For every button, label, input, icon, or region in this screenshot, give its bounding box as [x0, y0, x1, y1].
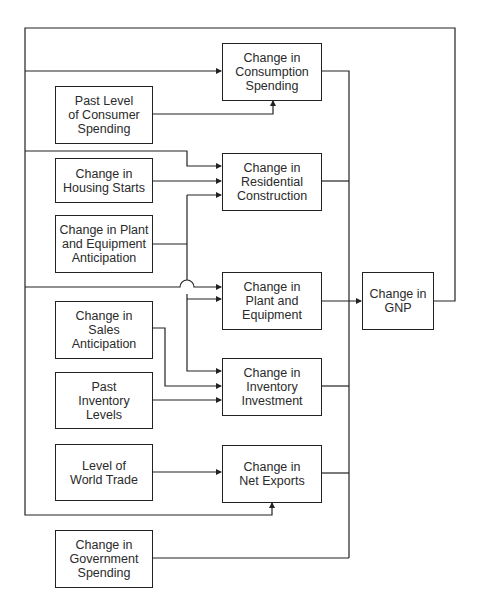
- node-world-trade: Level of World Trade: [55, 444, 153, 501]
- node-sales-anticipation: Change in Sales Anticipation: [55, 301, 153, 359]
- node-past-inventory-levels: Past Inventory Levels: [55, 372, 153, 429]
- node-gnp: Change in GNP: [362, 272, 434, 330]
- node-consumption-spending: Change in Consumption Spending: [222, 43, 322, 101]
- node-plant-equipment-anticipation: Change in Plant and Equipment Anticipati…: [55, 215, 153, 273]
- node-net-exports: Change in Net Exports: [222, 445, 322, 503]
- node-housing-starts: Change in Housing Starts: [55, 158, 153, 203]
- node-government-spending: Change in Government Spending: [55, 530, 153, 588]
- node-past-consumer-spending: Past Level of Consumer Spending: [55, 86, 153, 144]
- node-plant-equipment: Change in Plant and Equipment: [222, 272, 322, 330]
- node-residential-construction: Change in Residential Construction: [222, 153, 322, 211]
- node-inventory-investment: Change in Inventory Investment: [222, 358, 322, 416]
